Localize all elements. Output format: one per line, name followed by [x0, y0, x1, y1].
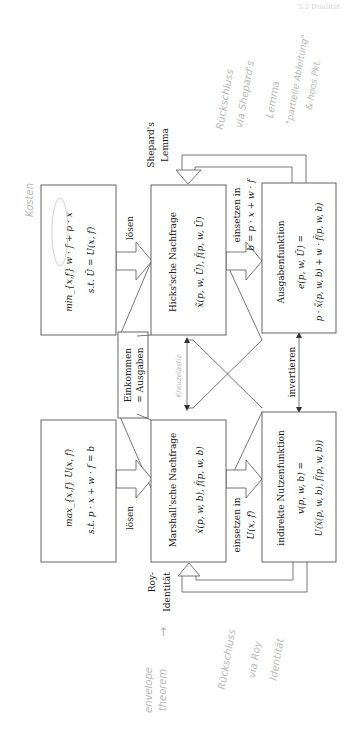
einsetzen-bottom-label-2: U(x, f) [246, 510, 256, 539]
min-problem-box [41, 185, 116, 335]
roy-arrow-head [178, 563, 200, 576]
handwriting-shepard-5: & hoos Pkt. [304, 58, 323, 110]
indirekt-line2: U(x̂(p, w, b), f̂(p, w, b)) [313, 440, 324, 536]
roy-label-1: Roy- [147, 572, 157, 592]
handwriting-shepard-4: "partielle Ableitung" [284, 34, 310, 126]
shepard-label-1: Shepard's [146, 122, 156, 168]
handwriting-middle-note: Kreuzelastiz. [175, 353, 183, 398]
min-problem-objective: min_{x,f} w · f + p · x [64, 212, 75, 312]
handwriting-roy-3: Identität [267, 636, 285, 681]
max-problem-box [41, 420, 116, 562]
max-problem-constraint: s.t. p · x + w · f = b [86, 446, 96, 534]
loesen-top-arrow [116, 242, 152, 280]
loesen-bottom-arrow [116, 460, 152, 498]
handwriting-shepard-1: Rückschluss [214, 68, 235, 130]
cross-lines [184, 337, 262, 411]
einsetzen-bottom-label-1: einsetzen in [232, 497, 242, 552]
ausgaben-title: Ausgabenfunktion [276, 220, 286, 304]
einkommen-line2: = Ausgaben [135, 347, 145, 403]
roy-outer-loop-line [182, 562, 307, 592]
marshall-demand-box [151, 420, 226, 562]
hicks-demand-box [151, 185, 226, 335]
einsetzen-top-label-1: einsetzen in [232, 187, 242, 242]
shepard-loop-arrows [176, 155, 306, 184]
roy-label-2: Identität [162, 572, 172, 612]
ausgaben-line1: e(p, w, Ū) = [295, 235, 306, 289]
handwriting-roy-2: via Roy [246, 639, 263, 678]
handwriting-envelope-1: envelope [143, 667, 154, 713]
handwriting-roy-1: Rückschluss [216, 628, 237, 690]
shepard-label-2: Lemma [160, 128, 170, 162]
einsetzen-bottom-arrow [226, 460, 262, 498]
hicks-formula: x̃(p, w, Ū), f̃(p, w, Ū) [194, 216, 205, 308]
min-problem-constraint: s.t. Ū = U(x, f) [85, 226, 96, 293]
roy-loop-arrows [178, 562, 307, 592]
shepard-outer-loop-line [182, 155, 306, 183]
handwriting-shepard-3: Lemma [264, 80, 281, 119]
handwriting-envelope-arrow: → [156, 627, 170, 637]
hicks-title: Hicks'sche Nachfrage [168, 212, 178, 312]
roy-inner-loop-line [196, 562, 293, 580]
handwriting-shepard-2: via Shepard's [233, 60, 256, 129]
handwriting-envelope-2: theorem [157, 668, 168, 711]
max-problem-objective: max_{x,f} U(x, f) [64, 449, 75, 527]
ausgaben-line2: p · x̃(p, w, b) + w · f̃(p, w, b) [313, 203, 324, 322]
shepard-arrow-head [176, 170, 201, 184]
einkommen-line1: Einkommen [123, 348, 133, 403]
loesen-bottom-label: lösen [125, 506, 135, 530]
loesen-top-label: lösen [125, 216, 135, 240]
duality-diagram: 5.5 Dualität [0, 0, 361, 744]
indirekt-title: indirekte Nutzenfunktion [276, 430, 286, 546]
marshall-title: Marshall'sche Nachfrage [168, 433, 178, 548]
marshall-formula: x̂(p, w, b), f̂(p, w, b) [194, 446, 205, 534]
page-header: 5.5 Dualität [298, 3, 340, 11]
handwriting-kosten: Kosten [24, 183, 35, 217]
shepard-inner-loop-line [195, 167, 292, 183]
invertieren-label: invertieren [287, 346, 297, 397]
indirekt-line1: v(p, w, b) = [296, 462, 306, 514]
einsetzen-top-label-2: b = p · x + w · f [246, 178, 256, 251]
